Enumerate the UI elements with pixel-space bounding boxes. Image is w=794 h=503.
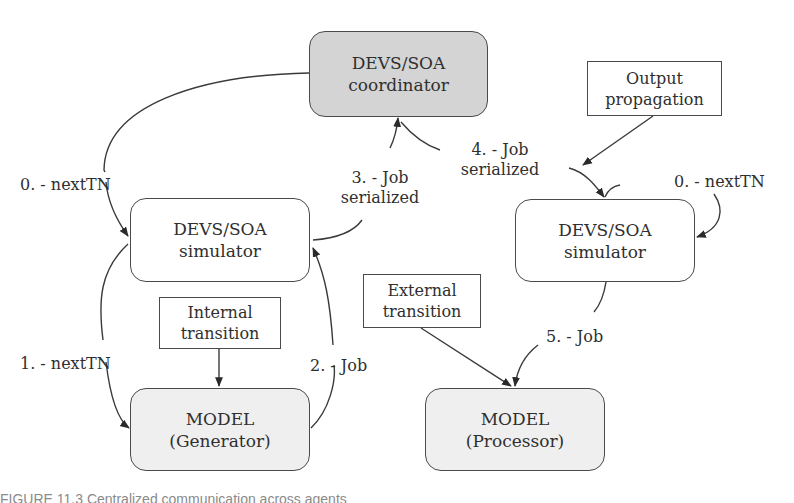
coordinator-title: DEVS/SOA [352,52,446,74]
edge-to-right-simulator [569,168,604,197]
external-transition-line2: transition [383,301,462,322]
edge-left-simulator-to-coordinator [313,220,362,240]
edge-external-transition [421,328,511,386]
edge-output-propagation [583,116,653,165]
edge-coordinator-branch [401,122,440,150]
coordinator-node: DEVS/SOA coordinator [309,31,488,117]
left-simulator-title: DEVS/SOA [173,218,267,240]
edge-label-job-2: 2. - Job [310,356,367,376]
generator-model-subtitle: (Generator) [169,430,270,452]
processor-model-title: MODEL [481,408,550,430]
edge-coordinator-to-left-simulator [104,73,309,172]
edge-label-4-line1: 4. - Job [460,140,540,160]
figure-caption: FIGURE 11.3 Centralized communication ac… [0,491,347,503]
internal-transition-box: Internal transition [159,297,281,349]
left-simulator-subtitle: simulator [179,240,261,262]
edge-label-3-line1: 3. - Job [340,168,420,188]
generator-model-title: MODEL [186,408,255,430]
output-propagation-line2: propagation [605,89,704,110]
edge-label-nexttn-1: 1. - nextTN [20,354,111,374]
right-simulator-subtitle: simulator [564,241,646,263]
generator-model-node: MODEL (Generator) [130,388,310,471]
output-propagation-line1: Output [626,68,683,89]
external-transition-box: External transition [363,274,481,328]
internal-transition-line2: transition [181,323,260,344]
processor-model-subtitle: (Processor) [466,430,564,452]
coordinator-subtitle: coordinator [348,74,449,96]
edge-label-4-line2: serialized [460,160,540,180]
left-simulator-node: DEVS/SOA simulator [130,198,310,282]
internal-transition-line1: Internal [187,302,252,323]
edge-right-nexttn [697,194,720,237]
external-transition-line1: External [387,280,456,301]
edge-label-job-serialized-4: 4. - Job serialized [460,140,540,180]
output-propagation-box: Output propagation [587,61,722,116]
right-simulator-node: DEVS/SOA simulator [515,199,695,282]
edge-label-3-line2: serialized [340,188,420,208]
edge-right-simulator-to-processor [594,282,606,312]
edge-label-right-nexttn-0: 0. - nextTN [674,172,765,192]
edge-left-simulator-to-generator [101,244,129,428]
right-simulator-title: DEVS/SOA [558,219,652,241]
edge-label-left-nexttn-0: 0. - nextTN [20,175,111,195]
edge-label-job-5: 5. - Job [546,327,603,347]
edge-label-job-serialized-3: 3. - Job serialized [340,168,420,208]
processor-model-node: MODEL (Processor) [425,388,605,471]
edge-generator-to-left-simulator [311,248,334,428]
